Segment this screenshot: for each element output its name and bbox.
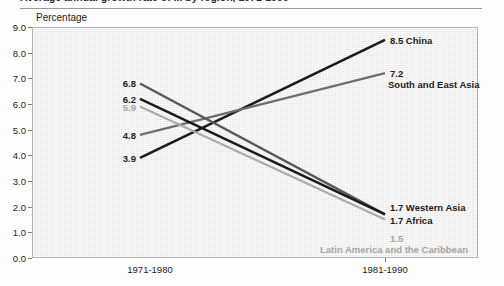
series-name-label: Western Asia	[403, 202, 465, 213]
y-tick-mark	[28, 130, 32, 131]
series-end-value: 1.7	[390, 202, 403, 213]
y-tick-label: 0.0	[0, 253, 26, 264]
series-start-value-label: 4.8	[110, 129, 136, 140]
series-end-value-label: 1.7 Africa	[390, 215, 432, 226]
y-tick-label: 5.0	[0, 124, 26, 135]
series-line	[140, 107, 385, 220]
y-tick-label: 1.0	[0, 227, 26, 238]
y-tick-label: 7.0	[0, 73, 26, 84]
y-tick-label: 6.0	[0, 99, 26, 110]
series-line	[140, 99, 385, 215]
y-tick-mark	[28, 232, 32, 233]
x-tick-label: 1981-1990	[362, 264, 407, 275]
series-end-value: 7.2	[390, 68, 403, 79]
series-end-value: 1.7	[390, 215, 403, 226]
series-end-value-label: 8.5 China	[390, 34, 432, 45]
series-end-value: 8.5	[390, 34, 403, 45]
x-tick-mark	[385, 258, 386, 262]
series-end-value-label: 7.2	[390, 68, 403, 79]
series-line	[140, 40, 385, 158]
y-tick-mark	[28, 258, 32, 259]
y-tick-label: 4.0	[0, 150, 26, 161]
series-end-value-label: 1.7 Western Asia	[390, 202, 466, 213]
series-start-value-label: 5.9	[110, 101, 136, 112]
series-lines	[140, 40, 385, 220]
x-tick-label: 1971-1980	[127, 264, 172, 275]
y-tick-mark	[28, 53, 32, 54]
series-name-label: Latin America and the Caribbean	[320, 243, 468, 254]
y-tick-mark	[28, 155, 32, 156]
series-end-value: 1.5	[390, 232, 403, 243]
y-tick-label: 8.0	[0, 47, 26, 58]
series-name-label: Africa	[403, 215, 432, 226]
series-end-value-label: 1.5	[390, 232, 403, 243]
y-tick-label: 2.0	[0, 201, 26, 212]
y-tick-mark	[28, 104, 32, 105]
series-name-label: South and East Asia	[388, 79, 480, 90]
y-tick-mark	[28, 27, 32, 28]
series-start-value-label: 6.8	[110, 78, 136, 89]
y-tick-label: 3.0	[0, 176, 26, 187]
chart-figure: Average annual growth rate of ... by reg…	[0, 0, 504, 286]
series-name-label: China	[403, 34, 432, 45]
y-tick-mark	[28, 78, 32, 79]
series-start-value-label: 3.9	[110, 152, 136, 163]
y-tick-label: 9.0	[0, 22, 26, 33]
y-tick-mark	[28, 181, 32, 182]
y-tick-mark	[28, 207, 32, 208]
